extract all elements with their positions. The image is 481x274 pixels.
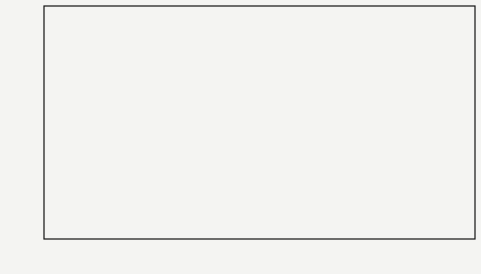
heisler-chart-plot (0, 0, 481, 274)
plot-frame (44, 6, 475, 239)
